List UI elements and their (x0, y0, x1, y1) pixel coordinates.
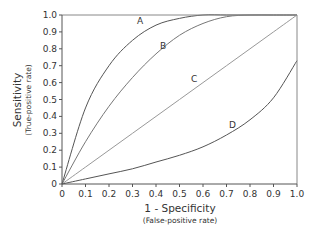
x-tick-label: 1.0 (290, 189, 305, 199)
x-tick-label: 0.2 (102, 189, 116, 199)
roc-chart: 00.10.20.30.40.50.60.70.80.91.0 00.10.20… (0, 0, 316, 236)
y-tick-label: 0 (51, 179, 57, 189)
curve-label-b: B (160, 41, 166, 51)
y-tick-label: 1.0 (43, 10, 58, 20)
y-tick-label: 0.9 (43, 27, 58, 37)
y-axis-title: Sensitivity (11, 73, 23, 128)
x-tick-label: 0.1 (78, 189, 92, 199)
y-tick-label: 0.4 (43, 111, 58, 121)
y-axis-subtitle: (True-positive rate) (24, 64, 33, 136)
y-tick-label: 0.5 (43, 95, 57, 105)
y-tick-label: 0.7 (43, 61, 57, 71)
x-tick-label: 0.7 (219, 189, 233, 199)
x-axis: 00.10.20.30.40.50.60.70.80.91.0 (59, 184, 304, 199)
roc-curves (62, 15, 297, 184)
y-tick-label: 0.6 (43, 78, 58, 88)
curve-label-d: D (229, 120, 236, 130)
x-tick-label: 0.4 (149, 189, 164, 199)
x-tick-label: 0.6 (196, 189, 211, 199)
y-tick-label: 0.2 (43, 145, 57, 155)
y-axis: 00.10.20.30.40.50.60.70.80.91.0 (43, 10, 62, 189)
y-tick-label: 0.8 (43, 44, 58, 54)
x-tick-label: 0.8 (243, 189, 258, 199)
curve-label-a: A (137, 16, 144, 26)
x-tick-label: 0.3 (125, 189, 139, 199)
y-tick-label: 0.3 (43, 128, 57, 138)
x-axis-title: 1 - Specificity (144, 202, 215, 214)
x-tick-label: 0 (59, 189, 65, 199)
curve-c (62, 15, 297, 184)
x-axis-subtitle: (False-positive rate) (143, 216, 217, 225)
y-tick-label: 0.1 (43, 162, 57, 172)
x-tick-label: 0.9 (266, 189, 281, 199)
curve-label-c: C (191, 74, 197, 84)
x-tick-label: 0.5 (172, 189, 186, 199)
